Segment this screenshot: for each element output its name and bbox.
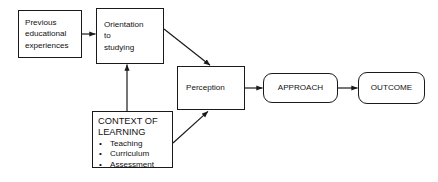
node-outcome-label: OUTCOME — [371, 82, 412, 93]
bullet-dot-icon: • — [99, 149, 110, 160]
node-approach-text: APPROACH — [278, 82, 323, 93]
node-context-bullet-list: • Teaching • Curriculum • Assessment — [93, 139, 172, 171]
list-item: • Assessment — [93, 160, 172, 171]
node-orientation-text: Orientation to studying — [97, 19, 163, 53]
node-orientation-line-3: studying — [104, 42, 163, 53]
diagram-canvas: Previous educational experiences Orienta… — [0, 0, 438, 182]
node-perception-text: Perception — [178, 82, 244, 93]
node-approach-label: APPROACH — [278, 82, 323, 93]
node-previous-educational-experiences: Previous educational experiences — [18, 10, 82, 58]
node-context-of-learning: CONTEXT OF LEARNING • Teaching • Curricu… — [92, 111, 173, 168]
list-item: • Curriculum — [93, 149, 172, 160]
node-previous-line-2: educational — [25, 28, 81, 39]
node-orientation-line-1: Orientation — [104, 19, 163, 30]
node-outcome-text: OUTCOME — [371, 82, 412, 93]
node-perception: Perception — [177, 66, 245, 110]
node-approach: APPROACH — [263, 73, 338, 103]
node-previous-text: Previous educational experiences — [19, 17, 81, 51]
bullet-dot-icon: • — [99, 160, 110, 171]
node-orientation-to-studying: Orientation to studying — [96, 8, 164, 64]
bullet-label-teaching: Teaching — [110, 139, 142, 150]
node-context-heading-line-1: CONTEXT OF — [93, 116, 172, 127]
node-outcome: OUTCOME — [358, 72, 425, 104]
node-previous-line-3: experiences — [25, 40, 81, 51]
edge-orientation-to-perception — [164, 29, 210, 65]
list-item: • Teaching — [93, 139, 172, 150]
bullet-label-curriculum: Curriculum — [110, 149, 149, 160]
edge-context-to-perception — [173, 111, 208, 143]
bullet-label-assessment: Assessment — [110, 160, 154, 171]
node-perception-label: Perception — [186, 82, 244, 93]
node-orientation-line-2: to — [104, 30, 163, 41]
node-previous-line-1: Previous — [25, 17, 81, 28]
node-context-heading-line-2: LEARNING — [93, 127, 172, 138]
bullet-dot-icon: • — [99, 139, 110, 150]
